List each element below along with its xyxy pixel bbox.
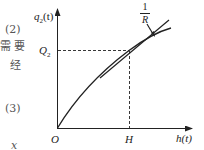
q2-tick-sub: 2 (47, 51, 51, 59)
y-axis-label-arg: (t) (43, 10, 53, 22)
slope-denominator: R (140, 14, 150, 25)
q2-tick-label: Q2 (39, 45, 50, 59)
slope-annotation: 1 R (140, 2, 150, 25)
q2-curve (58, 28, 172, 128)
q2-tick-q: Q (39, 44, 47, 56)
origin-label: O (51, 134, 59, 145)
tangent-line (100, 20, 169, 78)
slope-numerator: 1 (140, 2, 150, 14)
x-axis-label: h(t) (176, 133, 192, 144)
h-tick-label: H (125, 134, 133, 145)
y-axis-label: q2(t) (34, 11, 53, 25)
diagram-plot (0, 0, 204, 150)
